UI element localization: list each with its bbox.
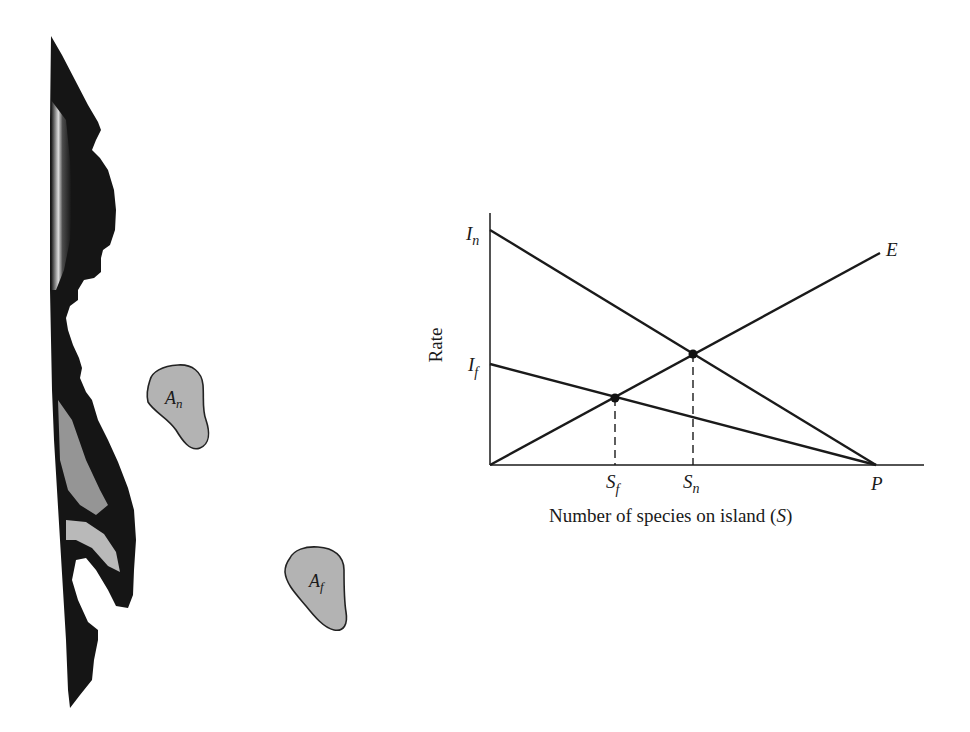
immigration-near-line	[490, 230, 876, 465]
equilibrium-near-point	[689, 350, 698, 359]
rate-chart: In If Rate E Sf Sn P Number of species o…	[425, 213, 924, 527]
x-label-P: P	[870, 473, 883, 494]
x-label-Sn: Sn	[683, 471, 700, 496]
x-label-Sf: Sf	[606, 471, 622, 497]
island-far: Af	[285, 547, 347, 630]
y-axis-label: Rate	[425, 328, 446, 363]
x-axis-label: Number of species on island (S)	[549, 505, 792, 527]
extinction-label: E	[885, 239, 898, 260]
immigration-far-line	[490, 364, 876, 465]
equilibrium-far-point	[611, 394, 620, 403]
island-biogeography-figure: An Af In If Rate E	[0, 0, 970, 732]
y-label-In: In	[465, 223, 479, 248]
mainland	[50, 36, 136, 708]
y-label-If: If	[467, 354, 480, 380]
island-near: An	[147, 365, 208, 449]
